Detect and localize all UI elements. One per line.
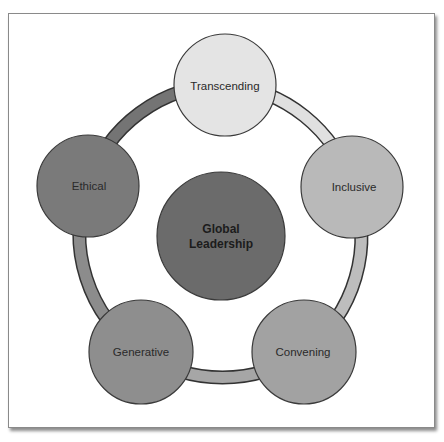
node-label: Inclusive [332, 181, 377, 193]
center-label-line1: Global [202, 222, 239, 236]
node-transcending: Transcending [174, 34, 276, 136]
center-label-line2: Leadership [189, 237, 253, 251]
node-convening: Convening [252, 300, 356, 404]
node-label: Ethical [72, 180, 107, 192]
center-node-global-leadership: Global Leadership [157, 172, 285, 300]
node-generative: Generative [89, 300, 193, 404]
node-ethical: Ethical [37, 135, 139, 237]
node-inclusive: Inclusive [301, 136, 403, 238]
leadership-cycle-diagram: Global Leadership Transcending Inclusive… [0, 0, 444, 442]
node-label: Transcending [190, 80, 259, 92]
node-label: Generative [113, 346, 169, 358]
node-label: Convening [276, 346, 331, 358]
